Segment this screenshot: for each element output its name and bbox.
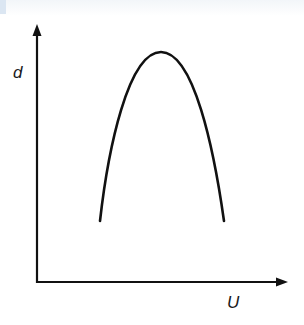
x-axis-arrow-icon — [276, 278, 288, 287]
chart-canvas — [0, 0, 304, 325]
data-curve — [100, 52, 224, 221]
x-axis-label: U — [227, 294, 239, 311]
y-axis-arrow-icon — [33, 24, 42, 36]
y-axis-label: d — [13, 64, 22, 81]
